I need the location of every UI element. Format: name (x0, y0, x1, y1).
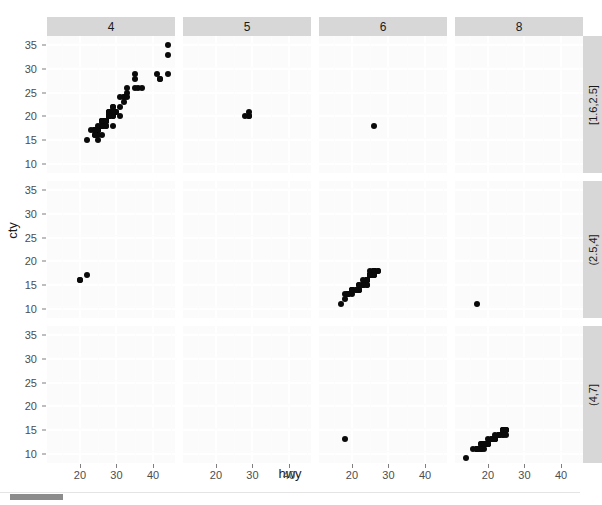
x-tick-label: 40 (276, 469, 302, 481)
panel-cyl8-displ2 (455, 326, 583, 463)
gridline-vertical (523, 181, 525, 318)
y-tick-mark (42, 406, 46, 407)
gridline-horizontal-minor (319, 451, 447, 452)
y-tick-mark (42, 237, 46, 238)
data-point (132, 71, 138, 77)
facet-strip-col-6: 6 (319, 17, 447, 36)
gridline-horizontal (47, 405, 175, 407)
gridline-horizontal (319, 358, 447, 360)
gridline-horizontal (319, 334, 447, 336)
gridline-horizontal (319, 44, 447, 46)
gridline-horizontal-minor (183, 212, 311, 213)
gridline-horizontal-minor (319, 235, 447, 236)
gridline-horizontal (183, 44, 311, 46)
gridline-horizontal-minor (183, 428, 311, 429)
gridline-horizontal-minor (47, 333, 175, 334)
y-tick-label: 35 (9, 184, 37, 196)
facet-strip-row-1: (2.5,4] (583, 181, 602, 318)
data-point (165, 71, 171, 77)
gridline-horizontal (183, 139, 311, 141)
x-tick-mark (153, 464, 154, 468)
gridline-vertical-minor (271, 36, 272, 173)
gridline-horizontal (319, 453, 447, 455)
gridline-horizontal (319, 189, 447, 191)
facet-strip-col-8: 8 (455, 17, 583, 36)
gridline-horizontal-minor (455, 43, 583, 44)
x-tick-mark (352, 464, 353, 468)
y-tick-mark (42, 214, 46, 215)
gridline-horizontal (455, 115, 583, 117)
gridline-horizontal-minor (47, 188, 175, 189)
gridline-horizontal-minor (47, 306, 175, 307)
data-point (474, 301, 480, 307)
gridline-horizontal-minor (183, 380, 311, 381)
gridline-vertical (387, 36, 389, 173)
gridline-horizontal (455, 453, 583, 455)
y-tick-label: 25 (9, 377, 37, 389)
x-tick-label: 40 (548, 469, 574, 481)
gridline-vertical-minor (543, 181, 544, 318)
gridline-vertical (79, 181, 81, 318)
gridline-vertical-minor (62, 36, 63, 173)
gridline-vertical (288, 326, 290, 463)
gridline-horizontal (319, 139, 447, 141)
gridline-horizontal (455, 92, 583, 94)
data-point (132, 85, 138, 91)
gridline-horizontal (183, 284, 311, 286)
gridline-horizontal-minor (319, 357, 447, 358)
gridline-horizontal (183, 260, 311, 262)
gridline-horizontal (455, 284, 583, 286)
data-point (84, 137, 90, 143)
gridline-horizontal-minor (455, 283, 583, 284)
gridline-horizontal-minor (455, 90, 583, 91)
gridline-horizontal (455, 382, 583, 384)
gridline-horizontal (319, 237, 447, 239)
gridline-vertical (152, 36, 154, 173)
gridline-vertical-minor (198, 326, 199, 463)
y-tick-label: 15 (9, 134, 37, 146)
gridline-horizontal (47, 284, 175, 286)
gridline-horizontal-minor (47, 428, 175, 429)
y-tick-mark (42, 359, 46, 360)
y-tick-mark (42, 429, 46, 430)
gridline-horizontal (183, 453, 311, 455)
y-tick-mark (42, 45, 46, 46)
panel-cyl5-displ2 (183, 326, 311, 463)
y-tick-mark (42, 382, 46, 383)
gridline-horizontal-minor (47, 138, 175, 139)
gridline-vertical-minor (234, 181, 235, 318)
x-tick-mark (252, 464, 253, 468)
y-tick-label: 15 (9, 279, 37, 291)
gridline-vertical (79, 36, 81, 173)
gridline-horizontal (319, 92, 447, 94)
gridline-vertical (487, 36, 489, 173)
facet-strip-row-0: [1.6,2.5] (583, 36, 602, 173)
data-point (139, 85, 145, 91)
x-tick-mark (216, 464, 217, 468)
data-point (121, 99, 127, 105)
gridline-horizontal (455, 405, 583, 407)
data-point (463, 455, 469, 461)
gridline-horizontal-minor (183, 67, 311, 68)
gridline-vertical-minor (407, 181, 408, 318)
gridline-horizontal-minor (455, 428, 583, 429)
horizontal-scrollbar-thumb[interactable] (10, 494, 63, 500)
horizontal-scrollbar-track[interactable] (0, 492, 580, 502)
y-tick-label: 10 (9, 303, 37, 315)
gridline-horizontal (47, 260, 175, 262)
y-tick-mark (42, 116, 46, 117)
gridline-vertical (523, 36, 525, 173)
gridline-vertical-minor (506, 326, 507, 463)
gridline-horizontal-minor (455, 259, 583, 260)
x-tick-mark (80, 464, 81, 468)
gridline-horizontal-minor (183, 161, 311, 162)
gridline-vertical-minor (334, 326, 335, 463)
gridline-horizontal-minor (455, 67, 583, 68)
gridline-horizontal (47, 189, 175, 191)
gridline-horizontal-minor (183, 138, 311, 139)
gridline-vertical-minor (506, 36, 507, 173)
gridline-horizontal-minor (183, 235, 311, 236)
gridline-horizontal (47, 237, 175, 239)
gridline-horizontal-minor (47, 235, 175, 236)
